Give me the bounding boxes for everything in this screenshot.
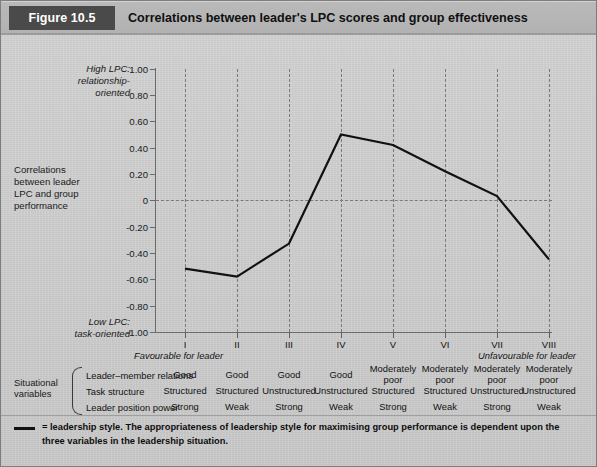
- leadership-style-line-marker-icon: [14, 427, 35, 430]
- x-tick-mark: [185, 332, 186, 338]
- x-tick-mark: [237, 332, 238, 338]
- x-axis-label-VII: VII: [477, 339, 517, 350]
- footnote-text: = leadership style. The appropriateness …: [42, 420, 582, 448]
- row-label-task-structure: Task structure: [86, 386, 144, 397]
- situational-variables-group-label: Situational variables: [14, 377, 70, 399]
- situational-variables-label-line1: Situational: [14, 377, 58, 388]
- situational-variables-label-line2: variables: [14, 388, 52, 399]
- x-tick-mark: [445, 332, 446, 338]
- favourable-for-leader-label: Favourable for leader: [134, 350, 223, 361]
- cell-r1-c8: Moderately poor: [516, 364, 582, 385]
- x-axis-label-VIII: VIII: [529, 339, 569, 350]
- x-axis-label-II: II: [217, 339, 257, 350]
- situational-variables-table: Situational variables Leader–member rela…: [0, 365, 596, 415]
- curly-brace-icon: [72, 367, 82, 415]
- x-tick-mark: [341, 332, 342, 338]
- footnote-divider: [0, 415, 596, 416]
- x-axis-label-III: III: [269, 339, 309, 350]
- x-tick-mark: [549, 332, 550, 338]
- x-axis-label-IV: IV: [321, 339, 361, 350]
- x-axis-label-V: V: [373, 339, 413, 350]
- x-tick-mark: [289, 332, 290, 338]
- cell-r3-c8: Weak: [516, 402, 582, 413]
- x-axis-label-VI: VI: [425, 339, 465, 350]
- x-tick-mark: [393, 332, 394, 338]
- unfavourable-for-leader-label: Unfavourable for leader: [478, 350, 576, 361]
- x-tick-mark: [497, 332, 498, 338]
- cell-r2-c8: Unstructured: [516, 386, 582, 397]
- x-axis-label-I: I: [165, 339, 205, 350]
